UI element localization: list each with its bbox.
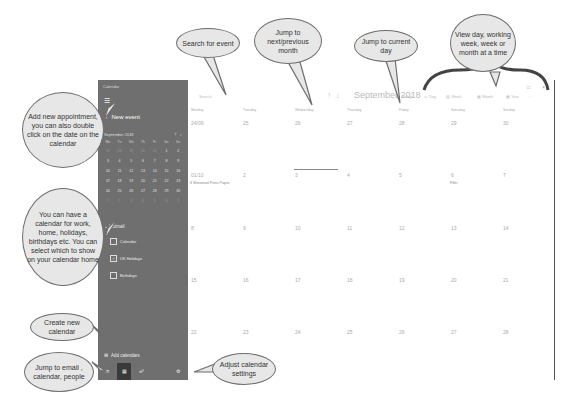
callout-settings: Adjust calendar settings — [212, 353, 276, 385]
callout-calendars: You can have a calendar for work, home, … — [22, 188, 104, 286]
callout-jump-apps: Jump to email , calendar, people — [24, 352, 94, 392]
callout-nav: Jump to next/previous month — [254, 18, 322, 64]
callout-views: View day, working week, week or month at… — [450, 14, 516, 72]
callout-new-event: Add new appointment, you can also double… — [22, 92, 104, 168]
callout-create-calendar: Create new calendar — [30, 313, 94, 341]
callout-today: Jump to current day — [354, 30, 418, 62]
callout-search: Search for event — [176, 28, 240, 58]
